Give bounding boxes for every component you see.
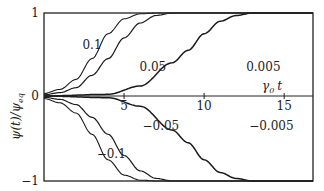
x-tick-label: 10 [196, 99, 211, 113]
curve-0p05 [44, 13, 313, 95]
chart: 51015 −101 0.10.050.005−0.1−0.05−0.005 γ… [0, 0, 324, 191]
curve-label: 0.005 [246, 60, 280, 74]
y-tick-label: −1 [21, 174, 39, 188]
curve-0p005 [44, 13, 313, 96]
curve-label: 0.1 [82, 38, 101, 52]
y-tick-label: 0 [31, 89, 39, 103]
curve-label: −0.1 [97, 147, 126, 161]
y-tick-label: 1 [31, 6, 39, 20]
curve-neg0p05 [44, 97, 313, 181]
curve-label: −0.005 [249, 119, 293, 133]
x-axis-label: γ0t [262, 79, 282, 95]
y-axis-label: ψ(t)/ψeq [9, 93, 25, 140]
x-tick-label: 15 [277, 99, 292, 113]
curve-label: 0.05 [140, 60, 167, 74]
x-tick-label: 5 [120, 99, 128, 113]
curve-neg0p005 [44, 96, 313, 181]
curve-label: −0.05 [142, 119, 179, 133]
